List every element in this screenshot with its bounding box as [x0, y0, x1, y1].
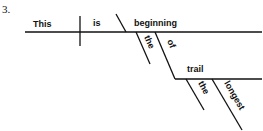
predicate-nominative-word: beginning: [134, 18, 177, 28]
article-1-word: the: [142, 34, 157, 50]
adjective-word: longest: [222, 79, 247, 112]
verb-word: is: [93, 18, 101, 28]
sentence-diagram: 3. This is beginning the of trail the lo…: [0, 0, 263, 131]
preposition-word: of: [165, 38, 178, 51]
subject-word: This: [33, 19, 52, 29]
predicate-divider: [116, 14, 126, 32]
problem-number: 3.: [2, 3, 11, 15]
object-word: trail: [187, 64, 204, 74]
article-2-word: the: [196, 79, 211, 96]
